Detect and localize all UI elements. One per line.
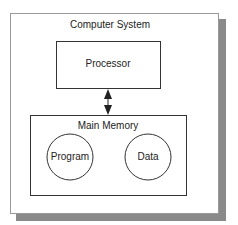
diagram-canvas: Computer System Processor Main Memory Pr… <box>0 0 238 225</box>
program-label: Program <box>51 151 89 162</box>
main-memory-label: Main Memory <box>78 120 139 131</box>
data-label: Data <box>137 151 159 162</box>
computer-system-label: Computer System <box>70 19 150 30</box>
processor-label: Processor <box>85 58 131 69</box>
